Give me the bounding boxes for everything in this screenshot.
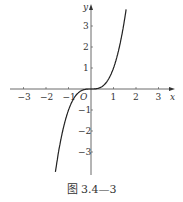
origin-label: O — [80, 92, 88, 102]
x-tick-label: 1 — [111, 92, 117, 102]
x-axis-arrow-icon — [169, 87, 175, 91]
y-tick-label: 2 — [83, 42, 89, 52]
x-tick-label: −3 — [18, 92, 32, 102]
y-tick-label: −2 — [78, 126, 91, 136]
x-tick-label: −1 — [63, 92, 76, 102]
x-tick-label: −2 — [40, 92, 53, 102]
y-axis-arrow-icon — [89, 4, 93, 10]
y-axis-label: y — [82, 2, 89, 12]
y-tick-label: −3 — [78, 147, 92, 157]
x-axis-label: x — [170, 92, 175, 102]
cubic-function-plot: −3−2−1123321−1−2−3Oxy — [0, 0, 183, 180]
y-tick-label: 1 — [83, 63, 89, 73]
x-tick-label: 2 — [133, 92, 139, 102]
y-tick-label: −1 — [78, 105, 91, 115]
figure-caption: 图 3.4—3 — [0, 180, 183, 196]
x-tick-label: 3 — [156, 92, 162, 102]
y-tick-label: 3 — [83, 21, 89, 31]
